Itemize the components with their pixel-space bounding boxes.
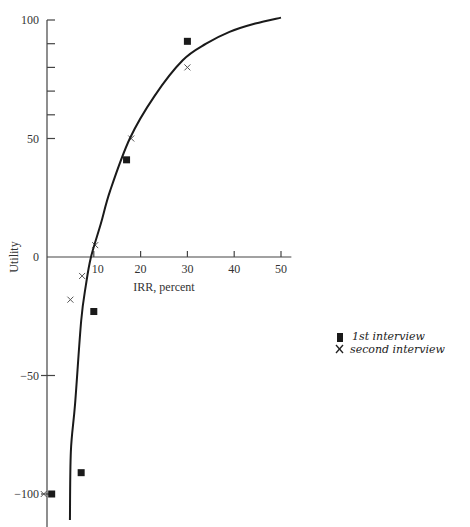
x-ticks: 1020304050: [92, 251, 287, 276]
x-axis-title: IRR, percent: [133, 280, 195, 294]
data-point-x: [79, 273, 85, 279]
y-tick-label: −50: [20, 369, 39, 383]
series-layer: [41, 18, 281, 520]
legend: 1st interview second interview: [336, 330, 446, 356]
data-point-square: [78, 469, 85, 476]
data-point-square: [123, 156, 130, 163]
legend-marker-square: [337, 333, 343, 342]
x-tick-label: 20: [135, 262, 147, 276]
legend-marker-x: [336, 345, 343, 353]
y-tick-label: 0: [33, 250, 39, 264]
utility-chart: 100500−50−100 1020304050 Utility IRR, pe…: [0, 0, 470, 527]
legend-label-second-interview: second interview: [350, 343, 446, 356]
y-tick-label: 100: [21, 13, 39, 27]
series-1st-interview: [48, 38, 191, 498]
x-tick-label: 30: [181, 262, 193, 276]
axes: [47, 20, 291, 527]
x-tick-label: 10: [92, 262, 104, 276]
data-point-x: [67, 297, 73, 303]
data-point-square: [90, 308, 97, 315]
y-axis-title: Utility: [7, 241, 21, 272]
y-tick-label: −100: [14, 487, 39, 501]
data-point-x: [184, 64, 190, 70]
legend-label-first-interview: 1st interview: [352, 330, 426, 343]
x-tick-label: 50: [275, 262, 287, 276]
data-point-square: [48, 491, 55, 498]
x-tick-label: 40: [228, 262, 240, 276]
data-point-square: [184, 38, 191, 45]
y-tick-label: 50: [27, 132, 39, 146]
